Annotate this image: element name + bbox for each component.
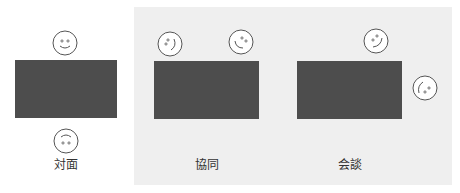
scene-label: 対面 xyxy=(54,155,78,172)
scene-label: 協同 xyxy=(195,155,219,172)
scene-label: 会談 xyxy=(338,155,362,172)
smiley-face-icon xyxy=(412,75,438,101)
table-rect xyxy=(154,61,259,119)
smiley-face-icon xyxy=(157,31,183,57)
table-rect xyxy=(15,60,117,118)
table-rect xyxy=(297,61,402,119)
smiley-face-icon xyxy=(363,28,389,54)
smiley-face-icon xyxy=(52,30,78,56)
smiley-face-icon xyxy=(53,128,79,154)
smiley-face-icon xyxy=(228,29,254,55)
